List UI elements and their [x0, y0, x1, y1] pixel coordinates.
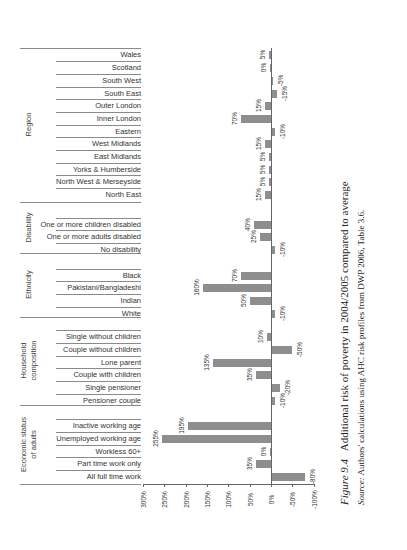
value-label: 10% [256, 326, 263, 346]
bar-inner-london [241, 115, 271, 123]
row-separator [56, 368, 141, 369]
value-label: 35% [246, 453, 253, 473]
category-label: Pakistani/Bangladeshi [67, 283, 141, 292]
value-label: 160% [192, 277, 199, 297]
row-separator [56, 87, 141, 88]
row-separator [56, 137, 141, 138]
source-label: Source: [356, 477, 366, 505]
value-label: 0% [260, 57, 267, 77]
category-label: No disability [101, 245, 141, 254]
x-tick-label: 200% [182, 488, 189, 512]
category-label: Eastern [115, 127, 141, 136]
category-label: All full time work [87, 472, 141, 481]
value-label: 50% [239, 290, 246, 310]
value-label: 0% [260, 441, 267, 461]
category-label: Lone parent [101, 358, 141, 367]
value-label: 135% [203, 352, 210, 372]
row-separator [56, 294, 141, 295]
row-separator [56, 269, 141, 270]
row-separator [56, 112, 141, 113]
row-separator [56, 188, 141, 189]
group-separator [20, 405, 141, 406]
figure-label: Figure 9.4 [338, 459, 350, 505]
row-separator [56, 175, 141, 176]
value-label: 35% [246, 364, 253, 384]
group-label-economic_2: of adults [29, 404, 38, 484]
row-separator [56, 150, 141, 151]
category-label: Inactive working age [73, 421, 141, 430]
row-separator [56, 230, 141, 231]
zero-axis [271, 48, 272, 484]
category-label: Single pensioner [85, 383, 141, 392]
value-label: 15% [254, 95, 261, 115]
row-separator [56, 163, 141, 164]
bar-one-or-more-adults-disabled [260, 233, 271, 241]
category-label: Outer London [95, 101, 141, 110]
group-label-region: Region [24, 85, 33, 165]
value-label: 255% [152, 428, 159, 448]
group-label-ethnicity: Ethnicity [24, 245, 33, 325]
value-label: -10% [279, 390, 286, 410]
row-separator [56, 394, 141, 395]
category-label: East Midlands [94, 152, 141, 161]
value-label: 70% [231, 108, 238, 128]
row-separator [56, 432, 141, 433]
bar-part-time-work-only [256, 460, 271, 468]
row-separator [56, 61, 141, 62]
group-label-economic_1: Economic status [19, 404, 28, 484]
group-label-household_2: composition [29, 321, 38, 401]
figure-caption: Figure 9.4 Additional risk of poverty in… [338, 181, 350, 505]
bar-lone-parent [213, 359, 271, 367]
row-separator [56, 381, 141, 382]
row-separator [56, 48, 141, 49]
category-label: Scotland [112, 63, 141, 72]
bar-all-full-time-work [271, 473, 305, 481]
group-separator [20, 484, 141, 485]
x-tick-label: 150% [204, 488, 211, 512]
category-label: Part time work only [77, 459, 141, 468]
row-separator [56, 281, 141, 282]
x-tick-label: 0% [268, 488, 275, 512]
x-tick-label: -50% [289, 488, 296, 512]
bar-couple-with-children [256, 371, 271, 379]
category-label: West Midlands [92, 139, 141, 148]
source-text: Authors' calculations using AHC risk pro… [356, 210, 366, 476]
value-label: 25% [250, 226, 257, 246]
bar-inactive-working-age [188, 422, 271, 430]
x-tick-label: 300% [140, 488, 147, 512]
row-separator [56, 470, 141, 471]
category-label: Indian [121, 296, 141, 305]
bar-indian [250, 297, 271, 305]
x-tick-label: 250% [161, 488, 168, 512]
group-label-household_1: Household [19, 321, 28, 401]
category-label: South East [104, 89, 141, 98]
row-separator [56, 343, 141, 344]
value-label: 195% [177, 415, 184, 435]
category-label: Black [123, 271, 141, 280]
row-separator [56, 330, 141, 331]
row-separator [56, 218, 141, 219]
value-label: -10% [279, 239, 286, 259]
category-label: Workless 60+ [95, 447, 141, 456]
category-label: Yorks & Humberside [73, 165, 141, 174]
x-tick-label: 100% [225, 488, 232, 512]
row-separator [56, 307, 141, 308]
bar-black [241, 272, 271, 280]
bar-couple-without-children [271, 346, 292, 354]
value-label: -10% [279, 303, 286, 323]
category-label: North West & Merseyside [56, 177, 141, 186]
value-label: 70% [231, 265, 238, 285]
group-separator [20, 202, 141, 203]
figure-source: Source: Authors' calculations using AHC … [356, 210, 366, 505]
row-separator [56, 243, 141, 244]
row-separator [56, 457, 141, 458]
value-label: 15% [254, 184, 261, 204]
figure-title: Additional risk of poverty in 2004/2005 … [338, 181, 350, 451]
value-label: -10% [279, 121, 286, 141]
category-label: White [122, 309, 141, 318]
x-tick-label: 50% [246, 488, 253, 512]
category-label: Couple without children [63, 345, 141, 354]
category-label: Couple with children [73, 370, 141, 379]
row-separator [56, 445, 141, 446]
category-label: Wales [120, 50, 141, 59]
